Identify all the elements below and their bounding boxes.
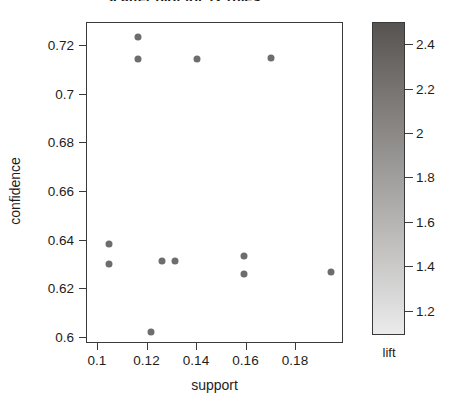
colorbar-tick-label: 2 [416,125,460,140]
y-axis-tick [79,45,86,46]
y-axis-tick-label: 0.66 [14,184,74,199]
y-axis-tick [79,142,86,143]
colorbar-tick-label: 1.4 [416,259,460,274]
data-point [106,241,113,248]
colorbar-gradient [373,23,404,334]
colorbar-tick [405,177,413,178]
y-axis-tick [79,337,86,338]
y-axis-tick [79,191,86,192]
data-point [134,34,141,41]
y-axis-tick-label: 0.7 [14,86,74,101]
colorbar-tick [405,133,413,134]
y-axis-tick-label: 0.6 [14,330,74,345]
lift-colorbar [372,22,405,335]
x-axis-tick [97,343,98,350]
x-axis-tick [295,343,296,350]
data-point [106,260,113,267]
colorbar-tick [405,222,413,223]
data-point [268,55,275,62]
y-axis-tick [79,240,86,241]
data-point [327,269,334,276]
colorbar-tick-label: 1.6 [416,214,460,229]
data-point [241,253,248,260]
y-axis-tick [79,288,86,289]
y-axis-tick-label: 0.72 [14,38,74,53]
data-point [159,258,166,265]
data-point [148,328,155,335]
colorbar-tick [405,44,413,45]
y-axis-tick-label: 0.68 [14,135,74,150]
scatter-plot-figure: Scatter plot for 12 rules confidence 0.7… [0,0,464,416]
y-axis-tick [79,94,86,95]
data-point [171,258,178,265]
x-axis-title: support [86,377,343,393]
chart-title: Scatter plot for 12 rules [0,0,364,1]
colorbar-tick-label: 1.2 [416,303,460,318]
colorbar-tick-label: 1.8 [416,170,460,185]
colorbar-title: lift [364,345,414,360]
x-axis-tick-label: 0.18 [265,353,325,368]
x-axis-tick [196,343,197,350]
colorbar-tick-label: 2.4 [416,37,460,52]
colorbar-tick [405,89,413,90]
y-axis-tick-label: 0.62 [14,281,74,296]
colorbar-tick-label: 2.2 [416,81,460,96]
colorbar-tick [405,311,413,312]
data-point [194,56,201,63]
plot-panel [86,22,343,343]
data-point [134,56,141,63]
y-axis-tick-label: 0.64 [14,232,74,247]
x-axis-tick [246,343,247,350]
x-axis-tick [147,343,148,350]
data-point [241,271,248,278]
colorbar-tick [405,266,413,267]
